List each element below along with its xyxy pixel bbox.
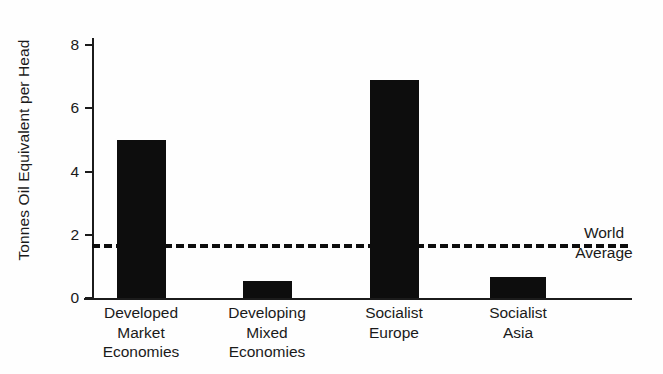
world-average-line [92, 244, 628, 248]
bar [117, 140, 166, 298]
world-average-label-line2: Average [552, 243, 656, 263]
y-tick-mark [85, 234, 93, 236]
x-axis-category-label-line: Asia [448, 323, 588, 343]
x-axis-category-label: DevelopingMixedEconomies [192, 303, 342, 362]
y-tick-mark [85, 297, 93, 299]
x-axis-category-label-line: Mixed [192, 323, 342, 343]
bar [243, 281, 292, 298]
y-tick-label: 2 [52, 226, 79, 244]
y-tick-mark [85, 44, 93, 46]
x-axis-category-label: SocialistAsia [448, 303, 588, 342]
y-tick-label: 4 [52, 163, 79, 181]
x-axis-category-label-line: Economies [192, 342, 342, 362]
y-tick-mark [85, 107, 93, 109]
x-axis-category-label-line: Europe [324, 323, 464, 343]
y-axis-line [92, 38, 94, 300]
world-average-label-line1: World [552, 223, 656, 243]
bar [490, 277, 546, 298]
bar-chart: Tonnes Oil Equivalent per Head 02468 Wor… [0, 0, 663, 374]
y-tick-label: 8 [52, 36, 79, 54]
bar [370, 80, 419, 298]
x-axis-category-label-line: Socialist [324, 303, 464, 323]
x-axis-line [84, 298, 632, 300]
world-average-label: World Average [552, 223, 656, 263]
y-tick-mark [85, 171, 93, 173]
x-axis-category-label-line: Developing [192, 303, 342, 323]
x-axis-category-label: SocialistEurope [324, 303, 464, 342]
x-axis-category-label-line: Socialist [448, 303, 588, 323]
plot-area: 02468 World Average DevelopedMarketEcono… [0, 0, 663, 374]
y-tick-label: 6 [52, 99, 79, 117]
